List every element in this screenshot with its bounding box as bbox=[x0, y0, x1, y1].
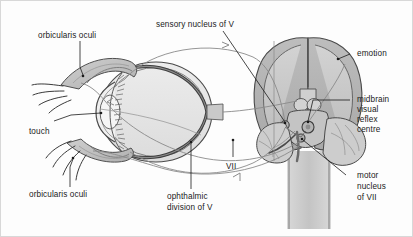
arrow-ophthalmic-v bbox=[222, 42, 229, 48]
label-motor-line1: motor bbox=[357, 171, 378, 181]
leader-dot-vii bbox=[232, 139, 235, 142]
label-midbrain-line4: centre bbox=[357, 125, 380, 135]
arrow-afferent-lower bbox=[233, 173, 240, 181]
leader-orbicularis-bottom bbox=[70, 159, 73, 187]
label-orbicularis-oculi-bottom: orbicularis oculi bbox=[29, 190, 87, 200]
label-vii: VII bbox=[226, 162, 236, 172]
label-emotion: emotion bbox=[357, 49, 387, 59]
label-motor-line2: nucleus bbox=[357, 182, 386, 192]
leader-dot-orbicularis-top bbox=[82, 75, 85, 78]
optic-nerve-stub bbox=[207, 104, 223, 120]
midbrain-nucleus-core bbox=[306, 125, 311, 130]
leader-touch bbox=[54, 113, 101, 121]
spinal-cord bbox=[287, 151, 331, 229]
label-ophthalmic-line1: ophthalmic bbox=[167, 192, 208, 202]
leader-dot-orbicularis-bottom bbox=[72, 157, 75, 160]
brain-group bbox=[254, 38, 366, 229]
label-orbicularis-oculi-top: orbicularis oculi bbox=[38, 31, 96, 41]
upper-eyelashes bbox=[32, 84, 71, 113]
label-midbrain-line2: visual bbox=[357, 105, 379, 115]
label-ophthalmic-line2: division of V bbox=[167, 203, 212, 213]
label-sensory-nucleus-of-v: sensory nucleus of V bbox=[156, 20, 234, 30]
leader-dot-ophthalmic-v bbox=[190, 141, 193, 144]
leader-dot-midbrain bbox=[307, 121, 310, 124]
label-midbrain-line1: midbrain bbox=[357, 95, 389, 105]
leader-dot-motor-vii bbox=[301, 138, 304, 141]
anatomy-figure: orbicularis oculi sensory nucleus of V e… bbox=[0, 0, 413, 237]
label-touch: touch bbox=[29, 127, 50, 137]
label-motor-line3: of VII bbox=[357, 193, 377, 203]
leader-dot-sensory-v bbox=[284, 122, 287, 125]
label-midbrain-line3: reflex bbox=[357, 115, 378, 125]
leader-dot-emotion bbox=[337, 58, 340, 61]
leader-dot-touch bbox=[100, 112, 103, 115]
